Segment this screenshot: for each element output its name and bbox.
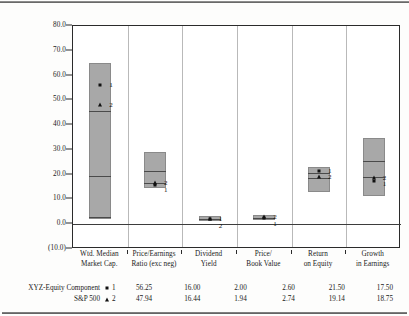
data-point-marker-square	[372, 179, 375, 182]
x-axis-category-3: DividendYield	[181, 250, 236, 274]
data-point-marker-triangle	[262, 215, 266, 219]
range-box	[363, 138, 385, 196]
x-axis-tick-mark	[127, 250, 128, 254]
y-axis-tick-label: 80.0	[53, 21, 66, 29]
legend-value-cell: 21.50	[313, 284, 361, 292]
chart-legend-table: XYZ-Equity Component156.2516.002.002.602…	[0, 283, 409, 307]
y-axis: 80.070.060.050.040.030.020.010.00.0(10.0…	[0, 25, 72, 248]
column-separator	[182, 26, 183, 247]
y-axis-tick-label: 30.0	[53, 145, 66, 153]
legend-value-cell: 2.60	[265, 284, 313, 292]
legend-value-cell: 56.25	[120, 284, 168, 292]
legend-series-name: S&P 500	[0, 295, 102, 303]
zero-baseline	[73, 224, 401, 225]
y-axis-tick-label: 50.0	[53, 95, 66, 103]
legend-value-cell: 17.50	[361, 284, 409, 292]
legend-series-key: 2	[112, 295, 120, 303]
category-label-line1: Growth	[345, 250, 400, 260]
y-axis-tick-label: 20.0	[53, 170, 66, 178]
square-icon	[106, 287, 109, 290]
page-top-rule	[0, 1, 409, 3]
data-point-marker-triangle	[317, 174, 321, 178]
legend-row: S&P 500247.9416.441.942.7419.1418.75	[0, 294, 409, 304]
category-label-line2: Ratio (exc neg)	[127, 260, 182, 270]
legend-series-name: XYZ-Equity Component	[0, 284, 102, 292]
quartile-divider-line	[363, 161, 385, 162]
triangle-icon	[105, 298, 109, 302]
page-bottom-rule	[2, 312, 407, 314]
x-axis-category-4: Price/Book Value	[236, 250, 291, 274]
data-point-marker-triangle	[208, 217, 212, 221]
x-axis-category-5: Returnon Equity	[291, 250, 346, 274]
x-axis-tick-mark	[236, 250, 237, 254]
legend-value-cell: 2.74	[265, 295, 313, 303]
x-axis-tick-mark	[181, 250, 182, 254]
category-label-line1: Price/Earnings	[127, 250, 182, 260]
category-label-line2: on Equity	[291, 260, 346, 270]
x-axis-category-1: Wtd. MedianMarket Cap.	[72, 250, 127, 274]
chart-plot-area: 122112211221	[72, 25, 400, 248]
x-axis-category-2: Price/EarningsRatio (exc neg)	[127, 250, 182, 274]
legend-value-cell: 2.00	[216, 284, 264, 292]
y-axis-tick-label: 60.0	[53, 71, 66, 79]
column-separator	[237, 26, 238, 247]
quartile-divider-line	[89, 176, 111, 177]
legend-value-row: 56.2516.002.002.6021.5017.50	[120, 284, 409, 292]
category-label-line2: Yield	[181, 260, 236, 270]
y-axis-tick-label: 40.0	[53, 120, 66, 128]
quartile-divider-line	[308, 178, 330, 179]
legend-value-cell: 1.94	[216, 295, 264, 303]
data-point-key-label: 2	[219, 222, 223, 229]
category-label-line1: Price/	[236, 250, 291, 260]
y-axis-tick-label: 10.0	[53, 194, 66, 202]
quartile-divider-line	[144, 171, 166, 172]
legend-row: XYZ-Equity Component156.2516.002.002.602…	[0, 283, 409, 293]
category-label-line2: in Earnings	[345, 260, 400, 270]
legend-value-cell: 16.44	[168, 295, 216, 303]
data-point-key-label: 2	[109, 102, 113, 109]
x-axis-tick-mark	[345, 250, 346, 254]
data-point-key-label: 1	[164, 186, 168, 193]
category-label-line2: Book Value	[236, 260, 291, 270]
x-axis-category-labels: Wtd. MedianMarket Cap.Price/EarningsRati…	[72, 250, 400, 274]
data-point-key-label: 1	[109, 81, 113, 88]
y-axis-tick-label: 0.0	[57, 219, 66, 227]
x-axis-category-6: Growthin Earnings	[345, 250, 400, 274]
column-separator	[128, 26, 129, 247]
data-point-marker-square	[318, 169, 321, 172]
range-box	[89, 63, 111, 219]
legend-value-row: 47.9416.441.942.7419.1418.75	[120, 295, 409, 303]
legend-value-cell: 47.94	[120, 295, 168, 303]
category-label-line2: Market Cap.	[72, 260, 127, 270]
legend-marker-triangle-icon	[102, 294, 112, 304]
data-point-marker-triangle	[153, 181, 157, 185]
legend-series-key: 1	[112, 284, 120, 292]
quartile-divider-line	[89, 217, 111, 218]
x-axis-tick-mark	[291, 250, 292, 254]
legend-marker-square-icon	[102, 283, 112, 293]
column-separator	[292, 26, 293, 247]
legend-value-cell: 19.14	[313, 295, 361, 303]
quartile-divider-line	[89, 111, 111, 112]
category-label-line1: Wtd. Median	[72, 250, 127, 260]
data-point-key-label: 1	[273, 220, 277, 227]
category-label-line1: Dividend	[181, 250, 236, 260]
data-point-marker-triangle	[372, 175, 376, 179]
legend-value-cell: 18.75	[361, 295, 409, 303]
y-axis-tick-label: 70.0	[53, 46, 66, 54]
column-separator	[346, 26, 347, 247]
legend-value-cell: 16.00	[168, 284, 216, 292]
data-point-marker-triangle	[98, 103, 102, 107]
y-axis-tick-label: (10.0)	[48, 244, 66, 252]
category-label-line1: Return	[291, 250, 346, 260]
data-point-marker-square	[99, 83, 102, 86]
data-point-key-label: 2	[328, 174, 332, 181]
data-point-key-label: 1	[383, 181, 387, 188]
